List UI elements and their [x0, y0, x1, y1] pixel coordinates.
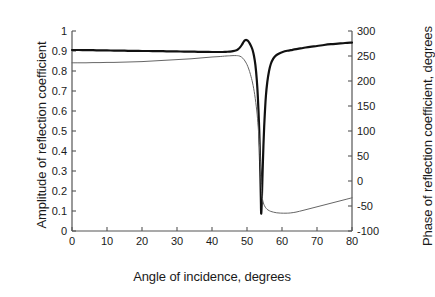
- y-tick-label-left: 0.5: [52, 125, 67, 137]
- y-tick-label-right: 100: [357, 125, 375, 137]
- y-tick-label-left: 0: [61, 225, 67, 237]
- x-tick-label: 20: [136, 235, 148, 247]
- y-tick-label-right: 250: [357, 50, 375, 62]
- y-tick-label-right: 300: [357, 25, 375, 37]
- x-tick-label: 40: [206, 235, 218, 247]
- series-line-2: [72, 56, 352, 214]
- y-tick-label-left: 0.8: [52, 65, 67, 77]
- y-tick-label-left: 0.1: [52, 205, 67, 217]
- x-tick-label: 0: [69, 235, 75, 247]
- y-tick-label-left: 0.3: [52, 165, 67, 177]
- axis-spines: [72, 31, 352, 231]
- x-tick-label: 50: [241, 235, 253, 247]
- x-tick-label: 30: [171, 235, 183, 247]
- y-tick-label-right: 150: [357, 100, 375, 112]
- x-tick-label: 10: [101, 235, 113, 247]
- x-tick-label: 70: [311, 235, 323, 247]
- y-tick-label-right: 200: [357, 75, 375, 87]
- y-tick-label-left: 0.2: [52, 185, 67, 197]
- y-tick-label-left: 0.4: [52, 145, 67, 157]
- y-tick-label-right: 50: [357, 150, 369, 162]
- y-tick-label-right: -50: [357, 200, 373, 212]
- y-tick-label-left: 0.9: [52, 45, 67, 57]
- y-tick-label-left: 0.7: [52, 85, 67, 97]
- y-tick-label-left: 1: [61, 25, 67, 37]
- y-tick-label-left: 0.6: [52, 105, 67, 117]
- y-tick-label-right: 0: [357, 175, 363, 187]
- x-tick-label: 60: [276, 235, 288, 247]
- data-curves: [72, 40, 352, 214]
- axis-ticks: [72, 31, 352, 231]
- series-line-1: [72, 40, 352, 214]
- y-tick-label-right: -100: [357, 225, 379, 237]
